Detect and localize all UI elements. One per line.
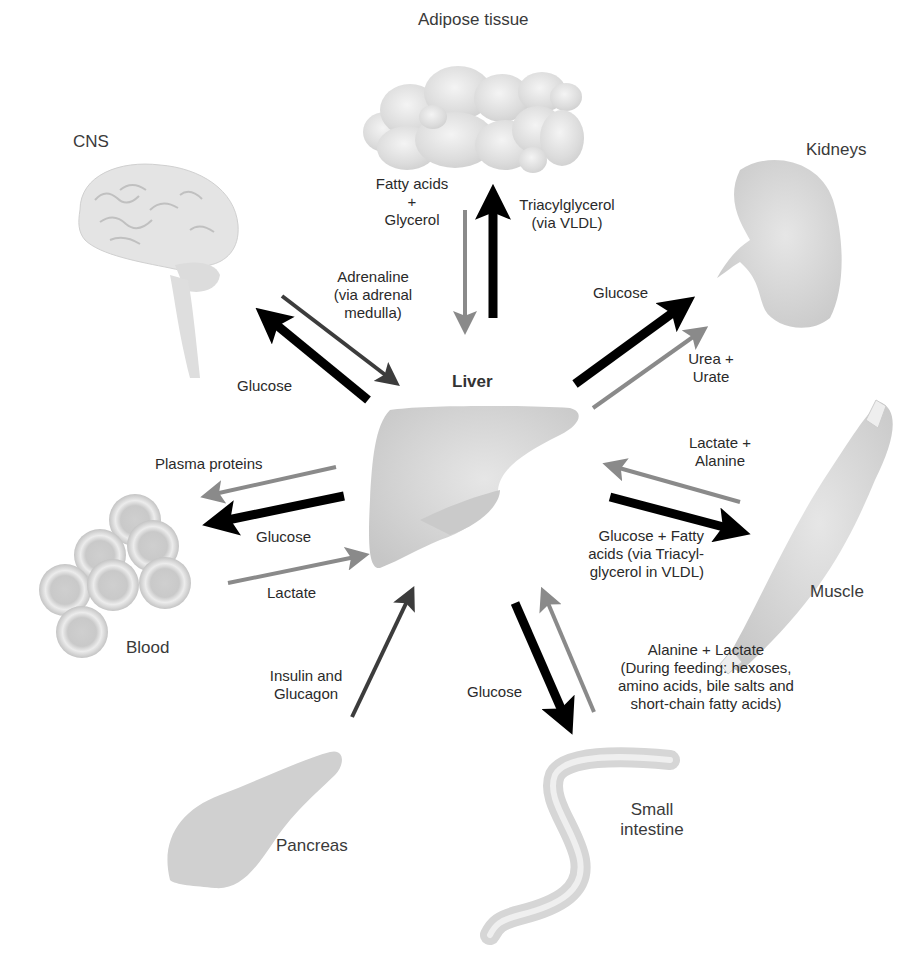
flow-label-glucose-intestine: Glucose [467, 683, 522, 701]
flow-label-insulin-glucagon: Insulin and Glucagon [262, 667, 350, 703]
flow-label-glucose-kidneys: Glucose [593, 284, 648, 302]
flow-label-alanine-lactate-feeding: Alanine + Lactate (During feeding: hexos… [596, 641, 816, 713]
organ-label-adipose: Adipose tissue [418, 10, 529, 30]
organ-label-liver: Liver [452, 372, 493, 392]
arrow-blood-to-liver [228, 556, 360, 583]
flow-label-fatty-acids-glycerol: Fatty acids + Glycerol [362, 175, 462, 229]
flow-label-lactate-blood: Lactate [267, 584, 316, 602]
adipose-tissue-illustration [363, 66, 584, 173]
arrow-liver-to-blood-glucose [218, 496, 344, 522]
organ-label-cns: CNS [73, 132, 109, 152]
arrow-liver-to-intestine [515, 603, 566, 720]
liver-illustration [369, 406, 579, 568]
brain-illustration [79, 164, 238, 378]
arrow-pancreas-to-liver [352, 595, 410, 717]
flow-label-adrenaline: Adrenaline (via adrenal medulla) [323, 268, 423, 322]
organ-label-blood: Blood [126, 638, 169, 658]
flow-label-triacylglycerol: Triacylglycerol (via VLDL) [512, 196, 622, 232]
liver-metabolism-diagram: Adipose tissue CNS Kidneys Muscle Blood … [0, 0, 909, 970]
arrow-liver-to-kidneys [575, 306, 682, 384]
pancreas-illustration [167, 751, 342, 888]
flow-label-lactate-alanine: Lactate + Alanine [680, 434, 760, 470]
organ-label-kidneys: Kidneys [806, 140, 866, 160]
organ-label-muscle: Muscle [810, 582, 864, 602]
arrow-liver-to-muscle [610, 497, 735, 530]
flow-label-glucose-fatty-acids: Glucose + Fatty acids (via Triacyl- glyc… [570, 527, 704, 581]
organ-label-small-intestine: Small intestine [617, 800, 687, 840]
arrow-muscle-to-liver [612, 466, 740, 502]
small-intestine-illustration [490, 757, 670, 935]
flow-label-plasma-proteins: Plasma proteins [155, 455, 263, 473]
flow-label-urea-urate: Urea + Urate [683, 350, 739, 386]
flow-label-glucose-cns: Glucose [237, 377, 292, 395]
blood-cells-illustration [39, 494, 191, 658]
diagram-artwork [0, 0, 909, 970]
organ-label-pancreas: Pancreas [276, 836, 348, 856]
kidney-illustration [717, 160, 842, 328]
flow-label-glucose-blood: Glucose [256, 528, 311, 546]
